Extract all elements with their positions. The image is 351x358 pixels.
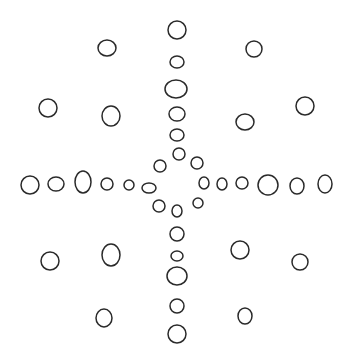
circle-cross-diagram bbox=[0, 0, 351, 358]
background bbox=[0, 0, 351, 358]
